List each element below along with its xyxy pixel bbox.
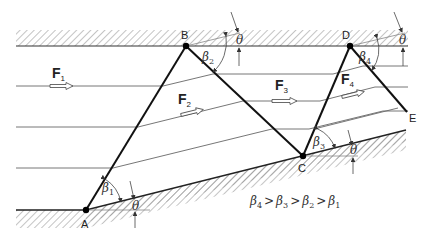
arrow-icon — [272, 98, 297, 105]
label-theta-B: θ — [236, 33, 244, 47]
streamline — [16, 87, 408, 127]
flow-arrow-2 — [180, 106, 204, 118]
label-D: D — [342, 29, 350, 41]
shock-AB — [86, 46, 186, 210]
flow-arrow-3 — [272, 98, 297, 105]
arrow-icon — [50, 83, 73, 90]
arrow-icon — [180, 106, 204, 118]
point-C — [300, 153, 306, 159]
label-B: B — [181, 29, 188, 41]
label-theta-D: θ — [399, 33, 407, 47]
flow-labels: F1 F2 F3 F4 — [52, 65, 355, 109]
label-beta3: β3 — [312, 135, 325, 151]
point-A — [83, 207, 89, 213]
label-E: E — [409, 112, 416, 124]
label-beta1: β1 — [101, 181, 114, 197]
label-beta2: β2 — [201, 50, 214, 66]
shock-diagram: A B C D E F1 F2 F3 F4 — [0, 0, 431, 240]
label-theta-C: θ — [350, 143, 358, 157]
label-F4: F4 — [341, 71, 355, 89]
bottom-wall-line — [16, 130, 406, 210]
label-A: A — [81, 218, 89, 230]
label-C: C — [298, 162, 306, 174]
bottom-wall — [16, 130, 406, 228]
point-B — [183, 43, 189, 49]
label-F3: F3 — [275, 77, 289, 95]
flow-arrows — [50, 83, 365, 119]
label-F2: F2 — [178, 91, 192, 109]
beta-relation: β4>β3>β2>β1 — [249, 194, 340, 210]
label-F1: F1 — [52, 65, 66, 83]
label-beta4: β4 — [358, 50, 371, 66]
label-theta-A: θ — [132, 199, 140, 213]
flow-arrow-1 — [50, 83, 73, 90]
point-D — [347, 43, 353, 49]
